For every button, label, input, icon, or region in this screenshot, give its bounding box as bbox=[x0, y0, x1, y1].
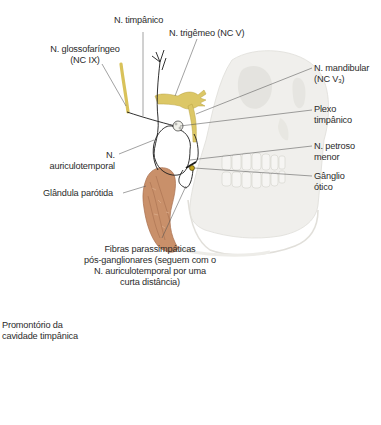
label-glandula-parotida: Glândula parótida bbox=[43, 188, 113, 199]
trigeminal-nerve-illustration bbox=[155, 90, 206, 142]
label-n-auriculotemporal: N. auriculotemporal bbox=[30, 150, 115, 172]
glossopharyngeal-nerve-segment bbox=[121, 64, 128, 112]
label-n-mandibular: N. mandibular (NC V3) bbox=[314, 63, 369, 87]
label-n-timpanico: N. timpânico bbox=[114, 15, 163, 26]
label-n-glossofaringeo: N. glossofaríngeo (NC IX) bbox=[45, 44, 125, 66]
label-n-trigemeo: N. trigêmeo (NC V) bbox=[169, 28, 244, 39]
otic-ganglion-illustration bbox=[190, 166, 195, 171]
label-plexo-timpanico: Plexo timpânico bbox=[314, 104, 352, 126]
label-n-petroso-menor: N. petroso menor bbox=[314, 141, 355, 163]
parotid-gland-illustration bbox=[143, 168, 178, 253]
label-ganglio-otico: Gânglio ótico bbox=[314, 171, 345, 193]
label-promontorio: Promontório da cavidade timpânica bbox=[2, 320, 78, 342]
label-fibras-parassimpaticas: Fibras parassimpáticas pós-ganglionares … bbox=[80, 244, 220, 288]
